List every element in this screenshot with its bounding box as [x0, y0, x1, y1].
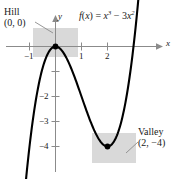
hill-annotation-title: Hill	[4, 6, 26, 17]
function-formula: f(x) = x3 − 3x2	[79, 10, 135, 21]
hill-point-marker	[53, 44, 59, 50]
graph-figure: f(x) = x3 − 3x2 x y −1 1 2 −2 −3 −4 Hill…	[0, 0, 184, 179]
y-axis-label: y	[58, 11, 62, 21]
formula-minus: −	[114, 10, 120, 21]
x-tick-label-minus1: −1	[24, 51, 34, 61]
valley-annotation-title: Valley	[138, 126, 165, 137]
y-tick-label-minus2: −2	[39, 91, 49, 101]
hill-annotation-coords: (0, 0)	[4, 17, 26, 28]
x-tick-label-1: 1	[79, 51, 84, 61]
y-tick-label-minus3: −3	[39, 116, 49, 126]
x-tick-label-2: 2	[105, 51, 110, 61]
valley-point-marker	[105, 144, 111, 150]
formula-term1-exponent: 3	[108, 9, 111, 16]
x-axis-label: x	[166, 38, 170, 48]
valley-annotation: Valley (2, −4)	[138, 126, 165, 148]
graph-canvas	[0, 0, 184, 179]
formula-equals: =	[95, 10, 101, 21]
formula-paren-close: )	[90, 10, 93, 21]
y-tick-label-minus4: −4	[39, 141, 49, 151]
formula-term2-exponent: 2	[131, 9, 134, 16]
valley-annotation-coords: (2, −4)	[138, 137, 165, 148]
hill-annotation: Hill (0, 0)	[4, 6, 26, 28]
